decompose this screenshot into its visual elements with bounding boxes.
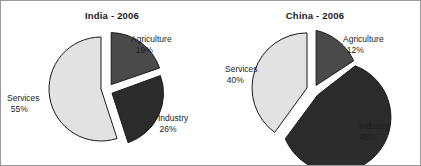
slice-label-industry-china-name: Industry bbox=[359, 121, 389, 131]
slice-label-industry-china: Industry 48% bbox=[359, 121, 389, 143]
pie-slice-services-india bbox=[49, 37, 117, 141]
slice-label-industry-india: Industry 26% bbox=[158, 113, 188, 135]
pie-chart-figure: India - 2006 Agriculture 19% Services 55… bbox=[0, 0, 421, 166]
chart-panel-india: India - 2006 Agriculture 19% Services 55… bbox=[1, 1, 211, 166]
slice-label-industry-india-pct: 26% bbox=[158, 124, 188, 135]
pie-svg-india bbox=[1, 1, 211, 166]
slice-label-agriculture-china-pct: 12% bbox=[343, 45, 384, 56]
slice-label-agriculture-india-pct: 19% bbox=[131, 45, 172, 56]
slice-label-services-india-pct: 55% bbox=[7, 104, 40, 115]
slice-label-services-india: Services 55% bbox=[7, 93, 40, 115]
slice-label-services-india-name: Services bbox=[7, 93, 40, 103]
slice-label-agriculture-india-name: Agriculture bbox=[131, 34, 172, 44]
slice-label-services-china-pct: 40% bbox=[225, 75, 258, 86]
slice-label-industry-india-name: Industry bbox=[158, 113, 188, 123]
pie-slice-industry-india bbox=[112, 76, 164, 143]
slice-label-services-china-name: Services bbox=[225, 64, 258, 74]
slice-label-agriculture-china-name: Agriculture bbox=[343, 34, 384, 44]
slice-label-agriculture-india: Agriculture 19% bbox=[131, 34, 172, 56]
slice-label-services-china: Services 40% bbox=[225, 64, 258, 86]
slice-label-industry-china-pct: 48% bbox=[359, 132, 389, 143]
pie-slice-services-china bbox=[252, 33, 307, 132]
slice-label-agriculture-china: Agriculture 12% bbox=[343, 34, 384, 56]
chart-panel-china: China - 2006 Agriculture 12% Services 40… bbox=[212, 1, 421, 166]
